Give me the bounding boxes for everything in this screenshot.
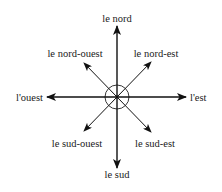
label-southwest: le sud-ouest xyxy=(52,138,103,149)
southwest-arrow-icon xyxy=(84,97,117,131)
compass-diagram: le nord le sud l'est l'ouest le nord-oue… xyxy=(0,0,222,192)
label-north: le nord xyxy=(102,13,132,24)
label-southeast: le sud-est xyxy=(135,138,175,149)
label-northwest: le nord-ouest xyxy=(47,48,102,59)
northeast-arrow-icon xyxy=(117,62,151,97)
label-northeast: le nord-est xyxy=(134,48,179,59)
southeast-arrow-icon xyxy=(117,97,151,132)
compass-center-dot xyxy=(116,96,119,99)
label-west: l'ouest xyxy=(16,92,43,103)
northwest-arrow-icon xyxy=(84,63,117,97)
label-south: le sud xyxy=(105,169,131,180)
label-east: l'est xyxy=(190,92,207,103)
